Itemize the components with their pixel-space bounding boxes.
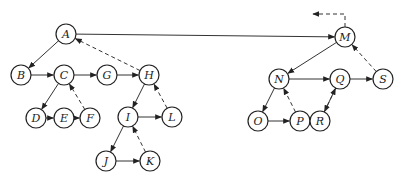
- node-label: I: [125, 111, 131, 124]
- node-label: B: [16, 69, 25, 82]
- edge-a-to-m: [76, 34, 335, 37]
- node-label: N: [273, 73, 284, 86]
- node-c: C: [54, 65, 74, 85]
- edge-l-to-h: [154, 84, 167, 108]
- node-label: L: [167, 111, 175, 124]
- edge-s-to-m: [352, 45, 376, 72]
- node-label: Q: [335, 73, 344, 86]
- node-label: E: [59, 112, 68, 125]
- edge-p-to-n: [284, 88, 296, 112]
- node-label: P: [295, 115, 304, 128]
- node-label: C: [60, 69, 69, 82]
- node-o: O: [248, 111, 268, 131]
- node-k: K: [140, 151, 160, 171]
- node-label: H: [143, 69, 154, 82]
- edge-h-to-i: [133, 84, 145, 108]
- edge-f-to-c: [69, 84, 84, 109]
- node-s: S: [373, 69, 393, 89]
- node-label: A: [61, 28, 70, 41]
- edge-c-to-d: [42, 83, 59, 109]
- node-n: N: [269, 69, 289, 89]
- node-label: K: [145, 155, 155, 168]
- node-label: D: [31, 112, 41, 125]
- node-d: D: [26, 108, 46, 128]
- node-h: H: [139, 65, 159, 85]
- node-j: J: [96, 151, 116, 171]
- threaded-tree-diagram: ABCGHDEFILJKMNQSOPR: [0, 0, 412, 182]
- node-q: Q: [330, 69, 350, 89]
- edge-i-to-j: [111, 126, 124, 152]
- node-label: R: [315, 115, 324, 128]
- edge-k-to-i: [133, 126, 146, 152]
- node-g: G: [97, 65, 117, 85]
- node-f: F: [80, 108, 100, 128]
- node-label: G: [103, 69, 112, 82]
- nodes-layer: ABCGHDEFILJKMNQSOPR: [11, 24, 393, 171]
- edge-n-to-o: [263, 88, 275, 112]
- node-e: E: [54, 108, 74, 128]
- edge-m-to-n: [288, 42, 337, 73]
- node-p: P: [290, 111, 310, 131]
- node-label: F: [85, 112, 94, 125]
- node-i: I: [118, 107, 138, 127]
- node-label: S: [379, 73, 387, 86]
- node-label: M: [338, 31, 351, 44]
- node-l: L: [162, 107, 182, 127]
- node-label: J: [102, 155, 109, 168]
- external-thread-arrow: [313, 14, 345, 27]
- node-label: O: [253, 115, 262, 128]
- edge-a-to-b: [29, 41, 59, 68]
- node-b: B: [11, 65, 31, 85]
- edges-layer: [29, 14, 377, 161]
- node-m: M: [335, 27, 355, 47]
- node-a: A: [56, 24, 76, 44]
- node-r: R: [310, 111, 330, 131]
